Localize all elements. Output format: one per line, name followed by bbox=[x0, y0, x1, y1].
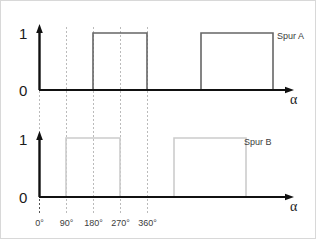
spur-b-trace-label: Spur B bbox=[244, 138, 272, 147]
x-tick-label-270: 270° bbox=[106, 219, 135, 228]
x-tick-label-180: 180° bbox=[79, 219, 108, 228]
encoder-signal-figure: 1 0 α Spur A 1 0 α Spur B 0° 90° 180° 27… bbox=[0, 0, 316, 239]
x-tick-label-0: 0° bbox=[25, 219, 54, 228]
spur-b-y-low-label: 0 bbox=[19, 190, 27, 205]
spur-a-y-high-label: 1 bbox=[19, 26, 27, 41]
spur-b-y-high-label: 1 bbox=[19, 132, 27, 147]
spur-b-axis-label: α bbox=[290, 200, 297, 214]
spur-a-y-axis bbox=[36, 24, 43, 90]
spur-a-y-low-label: 0 bbox=[19, 83, 27, 98]
x-tick-label-360: 360° bbox=[133, 219, 162, 228]
spur-b-x-axis bbox=[39, 194, 294, 201]
waveform-canvas bbox=[1, 1, 316, 239]
spur-a-trace-label: Spur A bbox=[277, 32, 304, 41]
spur-a-waveform bbox=[39, 33, 287, 90]
spur-a-x-axis bbox=[39, 87, 294, 94]
x-tick-label-90: 90° bbox=[52, 219, 81, 228]
spur-b-y-axis bbox=[36, 131, 43, 197]
spur-a-axis-label: α bbox=[290, 93, 297, 107]
